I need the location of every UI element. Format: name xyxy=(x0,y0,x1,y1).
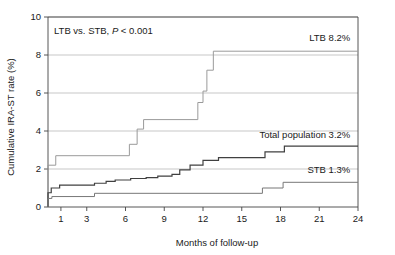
y-axis-title: Cumulative IRA-ST rate (%) xyxy=(5,58,16,176)
x-tick-label-24: 24 xyxy=(353,213,364,224)
series-label-total-population: Total population 3.2% xyxy=(259,129,350,140)
x-tick-label-12: 12 xyxy=(198,213,209,224)
y-tick-label-0: 0 xyxy=(36,201,41,212)
x-tick-label-1: 1 xyxy=(58,213,63,224)
x-tick-label-21: 21 xyxy=(314,213,325,224)
x-tick-label-9: 9 xyxy=(162,213,167,224)
x-tick-label-15: 15 xyxy=(236,213,247,224)
x-tick-label-18: 18 xyxy=(275,213,286,224)
significance-annotation: LTB vs. STB, P < 0.001 xyxy=(54,25,153,36)
y-tick-label-4: 4 xyxy=(36,125,41,136)
y-tick-label-6: 6 xyxy=(36,87,41,98)
series-label-ltb: LTB 8.2% xyxy=(309,32,351,43)
x-tick-label-6: 6 xyxy=(123,213,128,224)
annotation-prefix: LTB vs. STB, xyxy=(54,25,112,36)
y-tick-label-8: 8 xyxy=(36,49,41,60)
figure-container: 0246810 13691215182124 LTB 8.2%Total pop… xyxy=(0,0,395,255)
cumulative-ira-st-rate-chart: 0246810 13691215182124 LTB 8.2%Total pop… xyxy=(0,0,395,255)
x-tick-label-3: 3 xyxy=(84,213,89,224)
y-tick-label-10: 10 xyxy=(30,11,41,22)
annotation-suffix: < 0.001 xyxy=(118,25,153,36)
series-label-stb: STB 1.3% xyxy=(307,164,350,175)
y-tick-label-2: 2 xyxy=(36,163,41,174)
x-axis-title: Months of follow-up xyxy=(176,237,258,248)
